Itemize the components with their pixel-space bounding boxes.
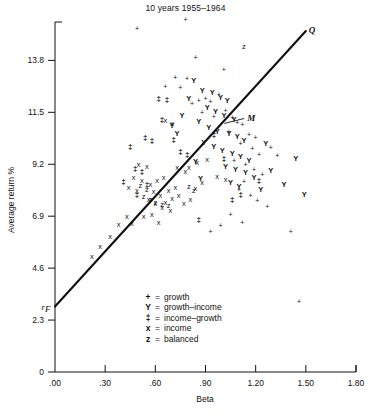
- legend-equals: =: [155, 313, 160, 323]
- data-point: ‡: [165, 95, 169, 104]
- legend-label-growth-income: growth–income: [164, 302, 222, 312]
- data-point: Y: [235, 132, 240, 141]
- data-point: Y: [246, 156, 251, 165]
- data-point: +: [242, 178, 246, 185]
- data-point: ‡: [238, 190, 242, 199]
- data-point: +: [247, 131, 251, 138]
- data-point: +: [185, 75, 189, 82]
- data-point: z: [167, 201, 171, 210]
- data-point: +: [200, 109, 204, 116]
- data-point: +: [183, 16, 187, 23]
- series-growth: ++++++++++++++++++++++++++++++++++++++++…: [135, 16, 301, 305]
- data-point: +: [208, 228, 212, 235]
- data-point: ‡: [150, 136, 154, 145]
- data-point: +: [257, 151, 261, 158]
- series-growth-income: YYYYYYYYYYYYYYYYYYYYYYYYYYYYYYYYYYYYYYY: [170, 76, 307, 199]
- legend-label-balanced: balanced: [164, 334, 199, 344]
- y-axis-label: Average return %: [6, 167, 16, 233]
- data-point: Y: [218, 93, 223, 102]
- data-point: Y: [206, 123, 211, 132]
- y-axis-ticks: 02.34.66.99.211.513.8: [27, 55, 55, 377]
- data-points-layer: ++++++++++++++++++++++++++++++++++++++++…: [90, 16, 307, 305]
- chart-figure: 10 years 1955–1964 02.34.66.99.211.513.8…: [0, 0, 371, 418]
- y-tick-label: 0: [39, 367, 44, 377]
- data-point: +: [203, 95, 207, 102]
- data-point: z: [192, 186, 196, 195]
- data-point: Y: [230, 149, 235, 158]
- data-point: Y: [243, 168, 248, 177]
- data-point: ‡: [178, 147, 182, 156]
- data-point: x: [158, 191, 162, 200]
- data-point: x: [177, 191, 181, 200]
- data-point: ‡: [257, 176, 261, 185]
- data-point: Y: [205, 103, 210, 112]
- data-point: x: [189, 195, 193, 204]
- data-point: Y: [225, 96, 230, 105]
- data-point: Y: [231, 115, 236, 124]
- data-point: z: [153, 198, 157, 207]
- data-point: z: [148, 195, 152, 204]
- data-point: x: [117, 220, 121, 229]
- data-point: Y: [201, 138, 206, 147]
- x-axis-ticks: .00.30.60.901.201.501.80: [49, 365, 364, 388]
- data-point: ‡: [212, 130, 216, 139]
- data-point: Y: [302, 190, 307, 199]
- data-point: +: [250, 145, 254, 152]
- x-tick-label: .30: [99, 378, 111, 388]
- data-point: ‡: [222, 154, 226, 163]
- data-point: Y: [238, 152, 243, 161]
- data-point: z: [142, 192, 146, 201]
- data-point: +: [173, 74, 177, 81]
- y-tick-label: 4.6: [32, 263, 44, 273]
- data-point: +: [193, 54, 197, 61]
- data-point: ‡: [143, 133, 147, 142]
- data-point: x: [215, 172, 219, 181]
- data-point: Y: [191, 76, 196, 85]
- data-point: Y: [226, 129, 231, 138]
- data-point: ‡: [172, 135, 176, 144]
- data-point: Y: [263, 139, 268, 148]
- data-point: ‡: [230, 195, 234, 204]
- legend-symbol-growth: +: [146, 292, 151, 302]
- data-point: x: [127, 183, 131, 192]
- legend-symbol-balanced: z: [146, 334, 150, 344]
- data-point: x: [205, 155, 209, 164]
- data-point: Y: [186, 94, 191, 103]
- data-point: ‡: [185, 150, 189, 159]
- data-point: Y: [223, 162, 228, 171]
- data-point: x: [108, 232, 112, 241]
- x-tick-label: 1.80: [348, 378, 365, 388]
- data-point: x: [152, 187, 156, 196]
- data-point: x: [137, 160, 141, 169]
- risk-free-rate-label: r F: [41, 302, 51, 315]
- x-axis-label: Beta: [196, 394, 214, 404]
- scatter-plot: 02.34.66.99.211.513.8 .00.30.60.901.201.…: [0, 0, 371, 418]
- data-point: +: [240, 219, 244, 226]
- data-point: +: [219, 222, 223, 229]
- data-point: x: [145, 162, 149, 171]
- data-point: z: [242, 42, 246, 51]
- data-point: x: [130, 219, 134, 228]
- data-point: Y: [200, 86, 205, 95]
- data-point: +: [229, 211, 233, 218]
- data-point: Y: [211, 142, 216, 151]
- legend-equals: =: [155, 323, 160, 333]
- legend-equals: =: [155, 302, 160, 312]
- legend-equals: =: [155, 334, 160, 344]
- data-point: Y: [210, 88, 215, 97]
- data-point: Y: [293, 154, 298, 163]
- data-point: x: [224, 175, 228, 184]
- data-point: Y: [213, 107, 218, 116]
- data-point: x: [150, 210, 154, 219]
- data-point: x: [195, 158, 199, 167]
- chart-legend: +=growthY=growth–income‡=income–growthx=…: [145, 292, 222, 344]
- data-point: Y: [268, 166, 273, 175]
- data-point: +: [249, 192, 253, 199]
- data-point: ‡: [156, 94, 160, 103]
- data-point: +: [265, 203, 269, 210]
- y-tick-label: 2.3: [32, 315, 44, 325]
- data-point: +: [297, 298, 301, 305]
- data-point: x: [157, 218, 161, 227]
- data-point: x: [162, 173, 166, 182]
- data-point: x: [170, 119, 174, 128]
